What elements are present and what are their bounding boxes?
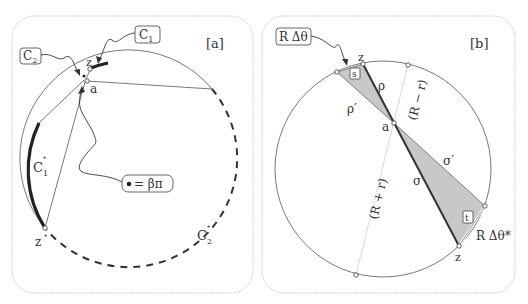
chord-a-zstar (45, 82, 85, 228)
point-zstar (43, 226, 47, 230)
label-zstar: z (35, 235, 41, 249)
star-c2: ⋆ (206, 222, 211, 231)
panel-a: [a] C1 C2 z a C1 ⋆ z ⋆ C2 ⋆ = βπ (20, 26, 237, 267)
panel-b: [b] R Δθ z s ρ ρ′ a (R − r) (R + r) σ σ′… (275, 28, 511, 277)
label-a: a (382, 120, 389, 134)
wavy-pointer-rdtheta (311, 36, 345, 60)
panel-b-tag: [b] (470, 36, 488, 51)
point-a (85, 79, 89, 83)
label-r-minus-r: (R − r) (405, 78, 429, 122)
wavy-pointer-beta (79, 88, 122, 182)
label-sigma-prime: σ′ (443, 154, 454, 168)
wavy-pointer-c1 (100, 33, 135, 58)
chord-a-left (39, 80, 84, 123)
label-rdtheta-star: R Δθ* (476, 229, 511, 243)
label-a: a (90, 82, 97, 96)
arrowhead-c2 (74, 69, 80, 76)
chord-a-right (87, 81, 212, 89)
label-z-top: z (358, 51, 364, 64)
label-c1-star: C1 (33, 160, 48, 178)
circle-solid-arc (20, 50, 212, 228)
beta-dot-icon (127, 182, 132, 187)
label-rdtheta: R Δθ (279, 30, 308, 44)
point-a (392, 121, 396, 125)
label-r-plus-r: (R + r) (366, 177, 390, 221)
label-rho-prime: ρ′ (347, 102, 357, 116)
point-beta (83, 75, 86, 78)
panel-b-frame (262, 16, 515, 293)
point-bottom-left (354, 273, 358, 277)
point-t-right (483, 204, 487, 208)
label-rho: ρ (378, 79, 385, 93)
point-z-bottom (457, 244, 461, 248)
wavy-pointer-c2 (41, 54, 78, 72)
diameter-r (356, 65, 408, 275)
label-t: t (465, 213, 469, 223)
point-s-left (335, 70, 339, 74)
arrowhead-c1 (96, 56, 102, 64)
label-sigma: σ (413, 174, 421, 188)
label-z-bottom: z (455, 251, 461, 264)
label-s: s (352, 69, 357, 79)
arrowhead-rdtheta (342, 59, 348, 66)
star-c1: ⋆ (42, 153, 47, 162)
star-zstar: ⋆ (43, 231, 48, 240)
label-beta-pi: = βπ (134, 177, 163, 191)
point-top-right (406, 63, 410, 67)
panel-a-frame (12, 16, 253, 293)
label-z: z (86, 56, 92, 69)
panel-a-tag: [a] (206, 36, 224, 51)
triangle-s (337, 64, 394, 123)
figure: [a] C1 C2 z a C1 ⋆ z ⋆ C2 ⋆ = βπ (0, 0, 528, 304)
arc-c1 (91, 63, 108, 68)
